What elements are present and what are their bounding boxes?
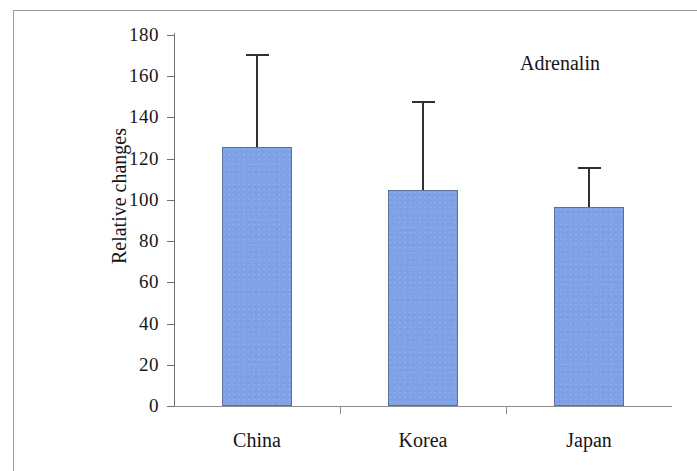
- bar: [222, 147, 292, 406]
- y-axis-tick-mark: [167, 35, 174, 36]
- error-bar-cap: [412, 101, 435, 103]
- y-axis-tick-mark: [167, 406, 174, 407]
- y-axis-tick-mark: [167, 76, 174, 77]
- x-axis-tick-mark: [340, 406, 341, 414]
- y-axis-tick-mark: [167, 200, 174, 201]
- y-axis-title: Relative changes: [108, 46, 130, 346]
- error-bar: [222, 54, 292, 148]
- y-axis-tick-mark: [167, 241, 174, 242]
- y-axis-tick-mark: [167, 159, 174, 160]
- y-axis-tick-mark: [167, 365, 174, 366]
- error-bar: [388, 101, 458, 190]
- figure-border-left: [13, 10, 14, 471]
- error-bar: [554, 167, 624, 207]
- x-axis-line: [170, 406, 672, 407]
- error-bar-cap: [578, 167, 601, 169]
- y-axis-tick-label: 20: [95, 353, 159, 377]
- figure-panel: 180160140120100806040200 Relative change…: [0, 0, 697, 471]
- y-axis-tick-mark: [167, 117, 174, 118]
- bar: [554, 207, 624, 406]
- y-axis-tick-label: 180: [95, 23, 159, 47]
- x-axis-category-label: Japan: [509, 428, 669, 452]
- x-axis-tick-mark: [506, 406, 507, 414]
- plot-area: 180160140120100806040200 Relative change…: [174, 35, 672, 406]
- bar: [388, 190, 458, 406]
- y-axis-tick-mark: [167, 282, 174, 283]
- y-axis-tick-label: 0: [95, 394, 159, 418]
- figure-border-top: [13, 10, 697, 11]
- error-bar-stem: [422, 101, 424, 190]
- series-annotation-label: Adrenalin: [520, 50, 600, 76]
- y-axis-tick-mark: [167, 324, 174, 325]
- error-bar-stem: [256, 54, 258, 148]
- error-bar-cap: [246, 54, 269, 56]
- x-axis-category-label: Korea: [343, 428, 503, 452]
- x-axis-category-label: China: [177, 428, 337, 452]
- error-bar-stem: [588, 167, 590, 207]
